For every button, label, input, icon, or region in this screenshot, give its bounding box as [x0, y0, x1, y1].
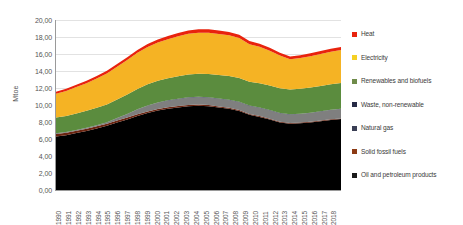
- x-axis-tick-label: 1997: [124, 211, 131, 225]
- x-axis-tick-label: 2016: [311, 211, 318, 225]
- x-axis-tick-label: 1999: [144, 211, 151, 225]
- y-axis-tick-label: 14,00: [16, 68, 52, 75]
- legend-item-label: Natural gas: [361, 124, 393, 132]
- legend-swatch-icon: [352, 55, 357, 60]
- x-axis-tick-label: 1995: [104, 211, 111, 225]
- x-axis-tick-label: 1991: [65, 211, 72, 225]
- x-axis-tick-label: 1998: [134, 211, 141, 225]
- x-axis-tick-label: 2018: [330, 211, 337, 225]
- y-axis-tick-label: 8,00: [16, 119, 52, 126]
- x-axis-tick-label: 2007: [222, 211, 229, 225]
- x-axis-tick-label: 2000: [154, 211, 161, 225]
- x-axis-tick-label: 2015: [301, 211, 308, 225]
- legend-item-label: Solid fossil fuels: [361, 148, 406, 156]
- legend-item[interactable]: Waste, non-renewable: [352, 101, 463, 109]
- legend-swatch-icon: [352, 173, 357, 178]
- x-axis-tick-label: 2011: [262, 211, 269, 225]
- x-axis-tick-label: 2017: [321, 211, 328, 225]
- chart-legend: HeatElectricityRenewables and biofuelsWa…: [352, 30, 463, 195]
- x-axis-tick-label: 1990: [55, 211, 62, 225]
- legend-item[interactable]: Natural gas: [352, 124, 463, 132]
- x-axis-tick-label: 2003: [183, 211, 190, 225]
- x-axis-tick-label: 1994: [95, 211, 102, 225]
- x-axis-tick-label: 2014: [291, 211, 298, 225]
- x-axis-tick-label: 1993: [85, 211, 92, 225]
- legend-item-label: Renewables and biofuels: [361, 77, 431, 85]
- legend-item[interactable]: Electricity: [352, 54, 463, 62]
- x-axis-tick-label: 2005: [203, 211, 210, 225]
- y-axis-tick-label: 18,00: [16, 34, 52, 41]
- x-axis-tick-label: 2008: [232, 211, 239, 225]
- legend-swatch-icon: [352, 149, 357, 154]
- legend-swatch-icon: [352, 79, 357, 84]
- legend-item[interactable]: Solid fossil fuels: [352, 148, 463, 156]
- y-axis-tick-label: 6,00: [16, 136, 52, 143]
- stacked-area-chart: Mtoe 20,0018,0016,0014,0012,0010,008,006…: [0, 0, 463, 225]
- legend-swatch-icon: [352, 32, 357, 37]
- x-axis-tick-label: 2010: [252, 211, 259, 225]
- x-axis-tick-label: 2009: [242, 211, 249, 225]
- legend-item-label: Oil and petroleum products: [361, 171, 436, 179]
- x-axis-tick-label: 2004: [193, 211, 200, 225]
- legend-item-label: Electricity: [361, 54, 388, 62]
- x-axis-tick-label: 1992: [75, 211, 82, 225]
- y-axis-tick-label: 16,00: [16, 51, 52, 58]
- legend-item[interactable]: Oil and petroleum products: [352, 171, 463, 179]
- x-axis-tick-label: 2002: [173, 211, 180, 225]
- y-axis-tick-labels: 20,0018,0016,0014,0012,0010,008,006,004,…: [16, 20, 52, 190]
- legend-swatch-icon: [352, 126, 357, 131]
- legend-swatch-icon: [352, 102, 357, 107]
- area-series-group: [56, 20, 341, 190]
- y-axis-tick-label: 20,00: [16, 17, 52, 24]
- legend-item-label: Waste, non-renewable: [361, 101, 424, 109]
- legend-item-label: Heat: [361, 30, 374, 38]
- x-axis-tick-label: 2001: [163, 211, 170, 225]
- x-axis-tick-label: 1996: [114, 211, 121, 225]
- y-axis-tick-label: 2,00: [16, 170, 52, 177]
- legend-item[interactable]: Renewables and biofuels: [352, 77, 463, 85]
- x-axis-tick-labels: 1990199119921993199419951996199719981999…: [55, 192, 340, 225]
- x-axis-tick-label: 2013: [281, 211, 288, 225]
- y-axis-tick-label: 10,00: [16, 102, 52, 109]
- legend-item[interactable]: Heat: [352, 30, 463, 38]
- y-axis-tick-label: 0,00: [16, 187, 52, 194]
- plot-area: [55, 20, 341, 191]
- x-axis-tick-label: 2012: [272, 211, 279, 225]
- y-axis-tick-label: 4,00: [16, 153, 52, 160]
- x-axis-tick-label: 2006: [213, 211, 220, 225]
- y-axis-tick-label: 12,00: [16, 85, 52, 92]
